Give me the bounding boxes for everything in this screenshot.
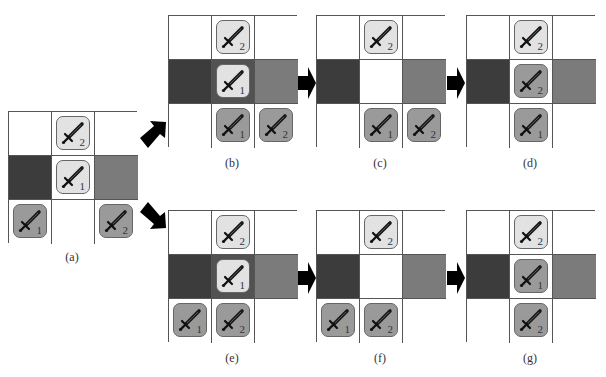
grid-cell [255, 60, 298, 104]
grid-cell: 2 [95, 200, 138, 244]
grid-cell [52, 200, 95, 244]
grid-cell: 1 [9, 200, 52, 244]
grid-cell: 1 [212, 60, 255, 104]
grid-cell: 2 [510, 299, 553, 343]
arrow-b-to-c-icon [298, 67, 316, 99]
grid-cell [553, 16, 596, 60]
grid-cell [255, 211, 298, 255]
tile-number: 1 [240, 279, 246, 291]
grid-cell [95, 156, 138, 200]
tile-number: 2 [123, 224, 129, 236]
grid-cell [467, 16, 510, 60]
grid-panel-g: 212 [466, 210, 595, 342]
tile-number: 2 [538, 323, 544, 335]
tile-number: 1 [345, 323, 351, 335]
label-f: (f) [360, 351, 400, 366]
grid-cell: 1 [212, 255, 255, 299]
grid-cell [95, 112, 138, 156]
grid-cell [317, 255, 360, 299]
sword-tile: 2 [514, 64, 548, 98]
grid-cell [553, 299, 596, 343]
grid-cell: 1 [169, 299, 212, 343]
arrow-e-to-f-icon [298, 262, 316, 294]
grid-cell: 1 [52, 156, 95, 200]
sword-tile: 2 [364, 215, 398, 249]
sword-tile: 1 [13, 204, 47, 238]
grid-cell [553, 60, 596, 104]
sword-tile: 1 [216, 64, 250, 98]
sword-tile: 2 [56, 116, 90, 150]
grid-cell: 2 [510, 60, 553, 104]
grid-cell [403, 211, 446, 255]
grid-cell [317, 16, 360, 60]
grid-cell: 2 [52, 112, 95, 156]
sword-tile: 2 [514, 20, 548, 54]
sword-tile: 1 [514, 259, 548, 293]
sword-tile: 1 [514, 108, 548, 142]
tile-number: 1 [388, 128, 394, 140]
sword-tile: 2 [407, 108, 441, 142]
sword-tile: 1 [321, 303, 355, 337]
sword-tile: 2 [364, 20, 398, 54]
sword-tile: 2 [364, 303, 398, 337]
grid-cell [9, 112, 52, 156]
grid-panel-c: 212 [316, 15, 445, 147]
sword-tile: 1 [173, 303, 207, 337]
arrow-a-to-e-icon [138, 198, 168, 232]
label-g: (g) [510, 351, 550, 366]
sword-tile: 2 [514, 215, 548, 249]
grid-panel-e: 2112 [168, 210, 297, 342]
grid-cell [403, 16, 446, 60]
grid-cell [403, 299, 446, 343]
grid-cell: 2 [360, 299, 403, 343]
grid-panel-b: 2112 [168, 15, 297, 147]
sword-tile: 2 [216, 215, 250, 249]
tile-number: 2 [388, 40, 394, 52]
tile-number: 2 [388, 323, 394, 335]
tile-number: 2 [240, 40, 246, 52]
tile-number: 1 [240, 84, 246, 96]
grid-cell: 1 [212, 104, 255, 148]
grid-cell [9, 156, 52, 200]
tile-number: 2 [538, 40, 544, 52]
tile-number: 1 [538, 128, 544, 140]
tile-number: 2 [538, 84, 544, 96]
sword-tile: 2 [216, 20, 250, 54]
tile-number: 2 [283, 128, 289, 140]
tile-number: 1 [37, 224, 43, 236]
grid-cell [169, 255, 212, 299]
sword-tile: 2 [259, 108, 293, 142]
tile-number: 2 [80, 136, 86, 148]
grid-cell: 2 [212, 211, 255, 255]
grid-cell: 2 [403, 104, 446, 148]
grid-cell: 2 [510, 211, 553, 255]
grid-cell [169, 211, 212, 255]
grid-cell [317, 211, 360, 255]
tile-number: 1 [197, 323, 203, 335]
grid-cell [467, 211, 510, 255]
grid-cell: 1 [317, 299, 360, 343]
grid-cell [403, 255, 446, 299]
grid-cell [169, 60, 212, 104]
arrow-c-to-d-icon [447, 67, 465, 99]
sword-tile: 1 [364, 108, 398, 142]
grid-cell [553, 255, 596, 299]
grid-cell [467, 60, 510, 104]
tile-number: 2 [240, 323, 246, 335]
grid-cell [169, 16, 212, 60]
grid-cell [467, 104, 510, 148]
grid-panel-d: 221 [466, 15, 595, 147]
arrow-a-to-b-icon [138, 118, 168, 152]
grid-cell [553, 211, 596, 255]
grid-cell: 1 [510, 255, 553, 299]
sword-tile: 1 [56, 160, 90, 194]
grid-cell: 1 [360, 104, 403, 148]
tile-number: 1 [538, 279, 544, 291]
tile-number: 2 [388, 235, 394, 247]
sword-tile: 2 [216, 303, 250, 337]
tile-number: 2 [538, 235, 544, 247]
grid-cell [360, 255, 403, 299]
sword-tile: 2 [99, 204, 133, 238]
grid-panel-a: 2112 [8, 111, 137, 243]
grid-cell [317, 60, 360, 104]
